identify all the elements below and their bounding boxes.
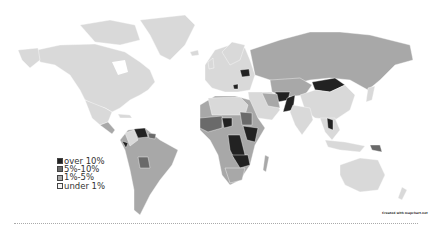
dotted-divider [14, 223, 418, 224]
legend-swatch [57, 158, 63, 164]
region-balkans [233, 84, 238, 89]
legend-item-under-1: under 1% [57, 182, 105, 190]
region-new-zealand [398, 187, 407, 200]
region-arctic-islands [80, 20, 140, 45]
world-map [0, 0, 435, 232]
region-greenland [140, 15, 195, 60]
map-legend: over 10% 5%-10% 1%-5% under 1% [57, 157, 105, 190]
region-indonesia [325, 140, 365, 152]
region-guianas [148, 133, 156, 139]
region-iceland [190, 50, 199, 56]
region-sudan [240, 112, 252, 125]
region-canada-usa [37, 44, 155, 112]
region-india [290, 105, 313, 135]
watermark: Created with mapchart.net [382, 211, 428, 215]
region-belarus [240, 69, 250, 77]
region-caribbean [118, 114, 132, 118]
region-madagascar [263, 155, 269, 172]
region-alaska [18, 48, 40, 68]
region-sahel-dark [222, 118, 232, 128]
region-australia [340, 158, 385, 192]
legend-swatch [57, 166, 63, 172]
region-bolivia [138, 157, 150, 168]
legend-label: under 1% [64, 182, 105, 190]
legend-swatch [57, 175, 63, 181]
region-papua-new-guinea [370, 145, 382, 152]
legend-swatch [57, 183, 63, 189]
